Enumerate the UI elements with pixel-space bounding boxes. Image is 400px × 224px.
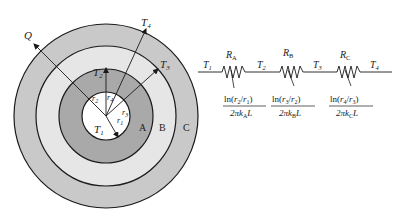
resistor-c-label: RC bbox=[339, 49, 350, 61]
rc-leader bbox=[345, 70, 351, 86]
layer-c-label: C bbox=[183, 122, 190, 133]
formula-resistance-a: ln(r2/r1) 2πkAL bbox=[223, 94, 266, 119]
layer-b-label: B bbox=[159, 122, 166, 133]
resistor-a-label: RA bbox=[225, 49, 237, 61]
layer-a-label: A bbox=[139, 122, 147, 133]
formula-resistance-b: ln(r3/r2) 2πkBL bbox=[271, 94, 315, 119]
formula-a-denominator: 2πkAL bbox=[230, 108, 252, 119]
formula-resistance-c: ln(r4/r3) 2πkCL bbox=[329, 94, 373, 119]
formula-c-denominator: 2πkCL bbox=[336, 108, 358, 119]
t4-label: T4 bbox=[141, 16, 151, 30]
formula-a-numerator: ln(r2/r1) bbox=[224, 94, 253, 105]
node-t1-label: T1 bbox=[203, 59, 212, 71]
formula-c-numerator: ln(r4/r3) bbox=[330, 94, 359, 105]
rb-leader bbox=[288, 70, 294, 86]
formula-b-denominator: 2πkBL bbox=[279, 108, 301, 119]
node-t4-label: T4 bbox=[370, 59, 380, 71]
ra-leader bbox=[231, 70, 234, 88]
q-label: Q bbox=[24, 29, 32, 41]
node-t3-label: T3 bbox=[313, 59, 323, 71]
formula-b-numerator: ln(r3/r2) bbox=[272, 94, 301, 105]
resistor-b-label: RB bbox=[282, 47, 294, 59]
cylinder-resistance-diagram: Q T4 T3 T2 T1 r2 r4 r3 r1 A B C T1 T2 T3… bbox=[0, 0, 400, 224]
circuit-wire bbox=[198, 66, 392, 78]
node-t2-label: T2 bbox=[257, 59, 267, 71]
